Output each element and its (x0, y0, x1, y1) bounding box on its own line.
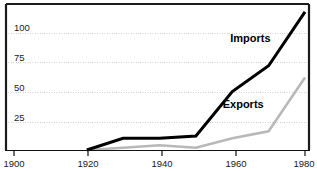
x-tick-label-1980: 1980 (293, 158, 314, 169)
series-label-imports: Imports (230, 32, 270, 44)
x-axis-labels: 1900 1920 1940 1960 1980 (3, 158, 314, 169)
y-tick-label-100: 100 (14, 22, 30, 33)
x-tick-label-1900: 1900 (3, 158, 24, 169)
chart-container: 100 75 50 25 Imports Exports 1900 1920 1 (0, 0, 317, 171)
y-tick-label-25: 25 (14, 112, 25, 123)
x-tick-label-1940: 1940 (151, 158, 172, 169)
y-tick-label-75: 75 (14, 52, 25, 63)
x-tick-label-1960: 1960 (225, 158, 246, 169)
series-label-exports: Exports (223, 98, 264, 110)
x-tick-label-1920: 1920 (77, 158, 98, 169)
line-chart: 100 75 50 25 Imports Exports 1900 1920 1 (0, 0, 317, 171)
plot-background (5, 3, 310, 150)
y-tick-label-50: 50 (14, 82, 25, 93)
